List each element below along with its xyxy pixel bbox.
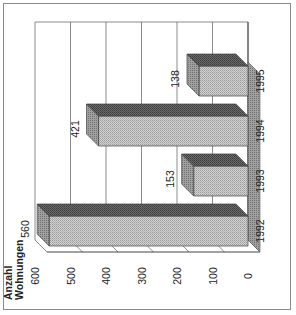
x-category-label: 1994 <box>254 119 266 143</box>
y-tick-label: 200 <box>171 267 183 285</box>
bar-chart: 0100200300400500600199256019931531994421… <box>0 0 296 315</box>
x-category-label: 1993 <box>254 169 266 193</box>
bar-1992 <box>37 204 248 246</box>
y-tick-label: 600 <box>29 267 41 285</box>
bars <box>37 54 248 246</box>
y-tick-label: 500 <box>65 267 77 285</box>
x-category-label: 1995 <box>254 69 266 93</box>
y-tick-label: 0 <box>242 273 254 279</box>
y-axis-title: Wohnungen <box>13 240 25 300</box>
bar-1994 <box>87 104 248 146</box>
x-category-label: 1992 <box>254 219 266 243</box>
bar-1995 <box>187 54 248 96</box>
data-label: 138 <box>169 70 181 88</box>
y-tick-label: 400 <box>100 267 112 285</box>
y-tick-label: 100 <box>207 267 219 285</box>
data-label: 560 <box>19 220 31 238</box>
y-tick-label: 300 <box>136 267 148 285</box>
data-label: 421 <box>69 120 81 138</box>
data-label: 153 <box>164 170 176 188</box>
bar-1993 <box>182 154 248 196</box>
